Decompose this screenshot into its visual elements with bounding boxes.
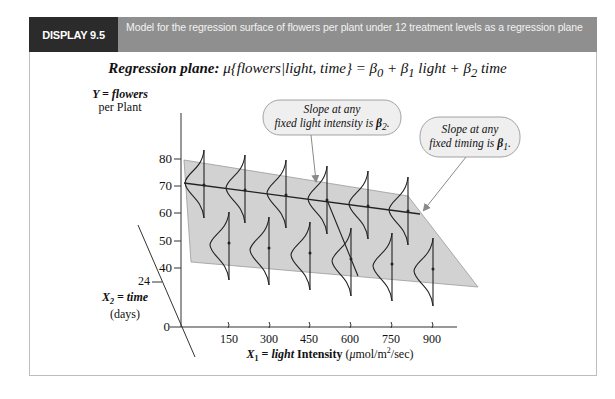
x1-tick-150: 150 xyxy=(214,332,244,347)
callout-timing-line1: Slope at any xyxy=(420,122,520,136)
y-tick-40: 40 xyxy=(150,260,172,276)
y-tick-80: 80 xyxy=(150,151,172,167)
x2-axis-title-line2: (days) xyxy=(90,308,160,321)
callout-timing-text: Slope at any fixed timing is β1. xyxy=(420,122,520,154)
y-tick-0: 0 xyxy=(150,319,170,335)
y-tick-50: 50 xyxy=(150,233,172,249)
x2-axis-title-line1: X2 = time xyxy=(90,291,160,308)
x1-tick-450: 450 xyxy=(294,332,324,347)
x1-tick-900: 900 xyxy=(417,332,447,347)
x1-tick-750: 750 xyxy=(376,332,406,347)
x1-tick-600: 600 xyxy=(335,332,365,347)
y-tick-70: 70 xyxy=(150,178,172,194)
y-axis-title-line2: per Plant xyxy=(70,101,170,114)
callout-timing-pointer xyxy=(424,157,466,210)
callout-timing-line2: fixed timing is β1. xyxy=(420,136,520,154)
callout-light-line2: fixed light intensity is β2. xyxy=(263,116,401,134)
x2-tick-24: 24 xyxy=(130,274,150,289)
y-axis-title: Y = flowers per Plant xyxy=(70,88,170,114)
x1-tick-300: 300 xyxy=(254,332,284,347)
x2-axis-title: X2 = time (days) xyxy=(90,291,160,321)
callout-light-line1: Slope at any xyxy=(263,102,401,116)
callout-light-pointer xyxy=(311,135,316,181)
x1-axis-title: X1 = light Intensity (μmol/m2/sec) xyxy=(200,346,460,363)
callout-light-text: Slope at any fixed light intensity is β2… xyxy=(263,102,401,134)
y-tick-60: 60 xyxy=(150,205,172,221)
